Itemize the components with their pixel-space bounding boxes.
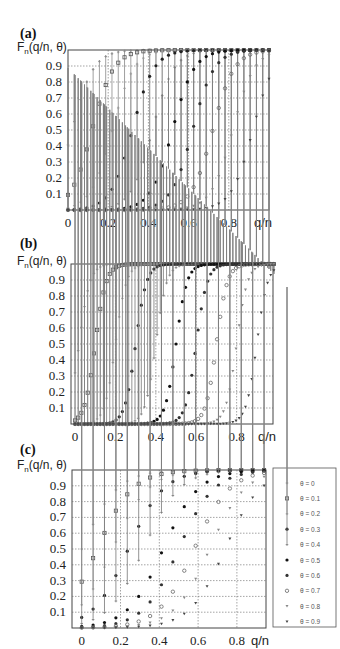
- legend-item: θ = 0.2: [300, 510, 320, 517]
- legend-item: θ = 0.3: [300, 526, 320, 533]
- svg-text:0.6: 0.6: [49, 320, 66, 335]
- svg-text:0.3: 0.3: [46, 154, 62, 169]
- svg-text:0.8: 0.8: [229, 429, 245, 444]
- svg-text:0.1: 0.1: [46, 186, 62, 201]
- svg-text:0.4: 0.4: [46, 138, 63, 153]
- svg-text:0.1: 0.1: [50, 604, 66, 619]
- legend-item: θ = 0: [300, 480, 315, 487]
- svg-text:0.6: 0.6: [188, 429, 205, 444]
- svg-text:0.9: 0.9: [46, 58, 62, 73]
- svg-text:0.2: 0.2: [112, 633, 128, 648]
- legend-item: θ = 0.5: [300, 557, 320, 564]
- svg-text:0.7: 0.7: [49, 304, 66, 319]
- svg-text:0.6: 0.6: [190, 633, 207, 648]
- svg-text:0.6: 0.6: [50, 525, 67, 540]
- legend-item: θ = 0.6: [300, 572, 320, 579]
- svg-text:0.4: 0.4: [50, 557, 67, 572]
- svg-text:0.8: 0.8: [46, 74, 62, 89]
- svg-text:0.8: 0.8: [50, 494, 66, 509]
- legend: θ = 0θ = 0.1θ = 0.2θ = 0.3θ = 0.4θ = 0.5…: [273, 287, 336, 627]
- svg-text:0.8: 0.8: [49, 288, 65, 303]
- plot-c: 0.10.20.30.40.50.60.70.80.900.20.40.60.8…: [50, 82, 269, 648]
- svg-text:0.5: 0.5: [50, 541, 66, 556]
- svg-text:q/n: q/n: [258, 429, 276, 444]
- svg-text:0.1: 0.1: [49, 400, 65, 415]
- svg-text:0.3: 0.3: [50, 573, 66, 588]
- svg-text:0.6: 0.6: [46, 106, 63, 121]
- series-9: [80, 485, 265, 630]
- svg-text:0.9: 0.9: [50, 478, 66, 493]
- svg-text:0.7: 0.7: [46, 90, 63, 105]
- svg-text:0: 0: [78, 633, 85, 648]
- legend-item: θ = 0.7: [300, 587, 320, 594]
- svg-text:0.2: 0.2: [49, 384, 65, 399]
- svg-text:0.7: 0.7: [50, 509, 67, 524]
- svg-text:0.4: 0.4: [140, 215, 157, 230]
- svg-text:0.3: 0.3: [49, 368, 65, 383]
- svg-text:0.8: 0.8: [229, 633, 245, 648]
- svg-text:0.9: 0.9: [49, 272, 65, 287]
- plot-a: 0.10.20.30.40.50.60.70.80.900.20.40.60.8…: [46, 48, 272, 269]
- svg-text:q/n: q/n: [251, 633, 269, 648]
- svg-text:0: 0: [65, 215, 72, 230]
- legend-item: θ = 0.9: [300, 618, 320, 625]
- legend-item: θ = 0.4: [300, 541, 320, 548]
- svg-text:0.2: 0.2: [50, 588, 66, 603]
- legend-item: θ = 0.1: [300, 495, 320, 502]
- svg-text:0.5: 0.5: [46, 122, 62, 137]
- svg-text:0: 0: [72, 429, 79, 444]
- legend-item: θ = 0.8: [300, 603, 320, 610]
- svg-text:0.4: 0.4: [151, 633, 168, 648]
- svg-text:0.2: 0.2: [46, 170, 62, 185]
- svg-text:0.2: 0.2: [107, 429, 123, 444]
- svg-text:0.4: 0.4: [49, 352, 66, 367]
- svg-text:0.5: 0.5: [49, 336, 65, 351]
- svg-text:0.2: 0.2: [100, 215, 116, 230]
- series-8: [80, 476, 265, 630]
- figure-canvas: 0.10.20.30.40.50.60.70.80.900.20.40.60.8…: [0, 0, 340, 649]
